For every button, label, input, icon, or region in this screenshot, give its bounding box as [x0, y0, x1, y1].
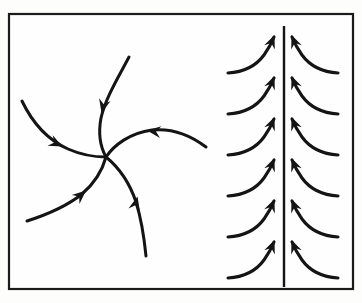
- phase-portrait-svg: [0, 0, 362, 303]
- figure-root: [0, 0, 362, 303]
